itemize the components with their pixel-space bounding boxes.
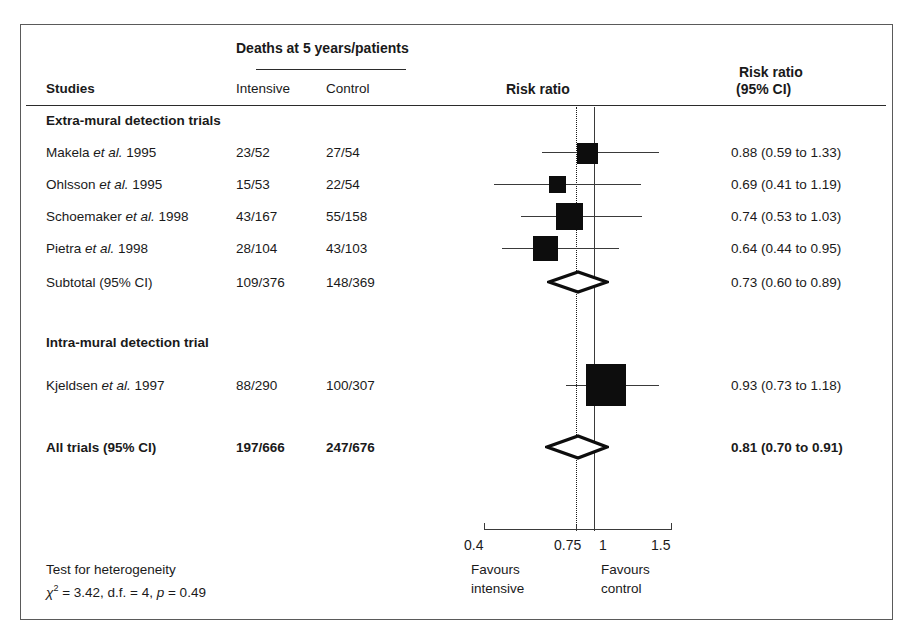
ci-line-kjeldsen bbox=[566, 385, 659, 386]
subtotal-control: 148/369 bbox=[326, 275, 375, 291]
cell-control: 43/103 bbox=[326, 241, 367, 257]
x-axis-left-cap bbox=[484, 523, 485, 530]
cell-control: 22/54 bbox=[326, 177, 360, 193]
heterogeneity-line1: Test for heterogeneity bbox=[46, 562, 176, 577]
effect-box-makela bbox=[577, 143, 598, 164]
study-name: Schoemaker bbox=[46, 209, 122, 224]
heterogeneity-line2: χ2 = 3.42, d.f. = 4, p = 0.49 bbox=[46, 583, 206, 600]
x-axis-label-3: 1.5 bbox=[651, 537, 670, 553]
x-axis-label-2: 1 bbox=[599, 537, 607, 553]
risk-ratio-ci-header-line2: (95% CI) bbox=[736, 81, 791, 97]
x-axis-label-0: 0.4 bbox=[464, 537, 483, 553]
subtotal-label: Subtotal (95% CI) bbox=[46, 275, 153, 291]
group-heading-intra-mural: Intra-mural detection trial bbox=[46, 335, 209, 351]
cell-effect: 0.93 (0.73 to 1.18) bbox=[731, 378, 841, 394]
group-heading-extra-mural: Extra-mural detection trials bbox=[46, 113, 221, 129]
favours-intensive-line2: intensive bbox=[471, 581, 551, 596]
cell-effect: 0.88 (0.59 to 1.33) bbox=[731, 145, 841, 161]
ci-line-makela bbox=[542, 152, 659, 153]
plot-area: Deaths at 5 years/patients Studies Inten… bbox=[21, 25, 894, 621]
table-row-study-label: Makela et al. 1995 bbox=[46, 145, 156, 161]
study-name: Ohlsson bbox=[46, 177, 96, 192]
table-row-study-label: Kjeldsen et al. 1997 bbox=[46, 378, 165, 394]
studies-header: Studies bbox=[46, 81, 95, 97]
header-bottom-rule bbox=[26, 105, 886, 106]
effect-box-kjeldsen bbox=[586, 364, 626, 406]
intensive-header: Intensive bbox=[236, 81, 290, 97]
cell-intensive: 88/290 bbox=[236, 378, 277, 394]
x-axis-tick-1 bbox=[594, 525, 595, 531]
deaths-span-rule bbox=[256, 69, 406, 70]
study-name: Kjeldsen bbox=[46, 378, 98, 393]
x-axis-label-1: 0.75 bbox=[554, 537, 581, 553]
favours-control-line2: control bbox=[601, 581, 681, 596]
cell-intensive: 15/53 bbox=[236, 177, 270, 193]
overall-control: 247/676 bbox=[326, 440, 375, 456]
null-effect-line bbox=[594, 107, 595, 531]
p-value: = 0.49 bbox=[164, 585, 206, 600]
subtotal-diamond bbox=[547, 270, 609, 294]
overall-intensive: 197/666 bbox=[236, 440, 285, 456]
study-year: 1995 bbox=[132, 177, 162, 192]
favours-control-line1: Favours bbox=[601, 562, 681, 577]
study-year: 1998 bbox=[118, 241, 148, 256]
x-axis-tick-075 bbox=[576, 525, 577, 531]
table-row-study-label: Ohlsson et al. 1995 bbox=[46, 177, 162, 193]
x-axis-right-cap bbox=[671, 523, 672, 530]
subtotal-intensive: 109/376 bbox=[236, 275, 285, 291]
ci-line-ohlsson bbox=[494, 184, 641, 185]
effect-box-schoemaker bbox=[556, 203, 583, 230]
cell-effect: 0.74 (0.53 to 1.03) bbox=[731, 209, 841, 225]
control-header: Control bbox=[326, 81, 370, 97]
overall-label: All trials (95% CI) bbox=[46, 440, 156, 456]
overall-effect: 0.81 (0.70 to 0.91) bbox=[731, 440, 843, 456]
favours-intensive-line1: Favours bbox=[471, 562, 551, 577]
cell-control: 55/158 bbox=[326, 209, 367, 225]
cell-intensive: 28/104 bbox=[236, 241, 277, 257]
study-year: 1995 bbox=[126, 145, 156, 160]
deaths-span-header: Deaths at 5 years/patients bbox=[236, 40, 409, 56]
cell-effect: 0.69 (0.41 to 1.19) bbox=[731, 177, 841, 193]
study-name: Makela bbox=[46, 145, 90, 160]
x-axis-line bbox=[484, 529, 672, 530]
study-year: 1998 bbox=[159, 209, 189, 224]
cell-effect: 0.64 (0.44 to 0.95) bbox=[731, 241, 841, 257]
pooled-reference-line bbox=[576, 107, 577, 527]
cell-intensive: 23/52 bbox=[236, 145, 270, 161]
study-year: 1997 bbox=[135, 378, 165, 393]
risk-ratio-header: Risk ratio bbox=[506, 81, 570, 97]
overall-diamond bbox=[545, 434, 609, 460]
table-row-study-label: Pietra et al. 1998 bbox=[46, 241, 148, 257]
cell-control: 27/54 bbox=[326, 145, 360, 161]
heterogeneity-stats: = 3.42, d.f. = 4, bbox=[58, 585, 156, 600]
effect-box-pietra bbox=[533, 236, 558, 261]
cell-intensive: 43/167 bbox=[236, 209, 277, 225]
table-row-study-label: Schoemaker et al. 1998 bbox=[46, 209, 189, 225]
ci-line-schoemaker bbox=[521, 216, 642, 217]
subtotal-effect: 0.73 (0.60 to 0.89) bbox=[731, 275, 841, 291]
effect-box-ohlsson bbox=[549, 176, 566, 193]
cell-control: 100/307 bbox=[326, 378, 375, 394]
study-name: Pietra bbox=[46, 241, 81, 256]
ci-line-pietra bbox=[502, 248, 619, 249]
risk-ratio-ci-header-line1: Risk ratio bbox=[739, 64, 803, 80]
forest-plot-figure: Deaths at 5 years/patients Studies Inten… bbox=[20, 24, 893, 620]
